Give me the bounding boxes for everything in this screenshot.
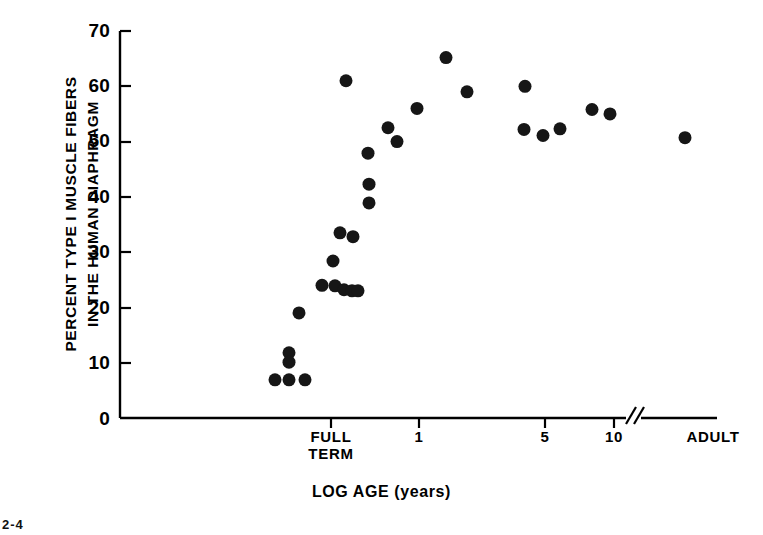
data-point xyxy=(411,102,424,115)
data-point xyxy=(327,254,340,267)
data-point xyxy=(299,373,312,386)
data-point xyxy=(518,123,531,136)
data-point xyxy=(363,178,376,191)
data-point xyxy=(537,129,550,142)
data-point xyxy=(316,279,329,292)
data-point xyxy=(334,226,347,239)
data-point xyxy=(352,284,365,297)
data-point xyxy=(283,356,296,369)
data-point-group xyxy=(269,51,692,386)
data-point xyxy=(293,306,306,319)
data-point xyxy=(554,122,567,135)
scatter-plot-canvas xyxy=(0,0,763,535)
data-point xyxy=(382,121,395,134)
figure-panel: PERCENT TYPE I MUSCLE FIBERS IN THE HUMA… xyxy=(0,0,763,535)
data-point xyxy=(391,135,404,148)
data-point xyxy=(519,80,532,93)
data-point xyxy=(363,196,376,209)
data-point xyxy=(362,147,375,160)
data-point xyxy=(461,85,474,98)
data-point xyxy=(340,74,353,87)
data-point xyxy=(347,230,360,243)
data-point xyxy=(440,51,453,64)
data-point xyxy=(604,107,617,120)
data-point xyxy=(679,131,692,144)
data-point xyxy=(283,373,296,386)
data-point xyxy=(586,103,599,116)
data-point xyxy=(269,373,282,386)
axis-group xyxy=(120,31,717,428)
